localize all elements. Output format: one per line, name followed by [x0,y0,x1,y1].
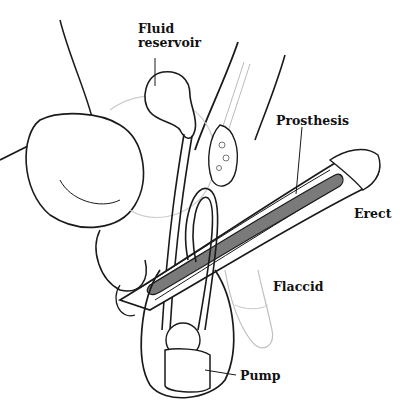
label-pump: Pump [240,369,280,383]
label-erect: Erect [354,207,391,221]
label-line: reservoir [138,36,201,50]
label-line: Fluid [138,22,201,36]
label-prosthesis: Prosthesis [276,114,349,128]
label-fluid-reservoir: Fluid reservoir [138,22,201,50]
pump [165,349,210,392]
label-flaccid: Flaccid [273,280,323,294]
prosthesis-cylinder [147,174,343,294]
bladder [26,114,143,228]
lower-anatomy [96,230,146,291]
pubic-bone [209,125,238,186]
prosthesis-diagram [0,0,408,409]
fluid-reservoir [145,72,196,139]
